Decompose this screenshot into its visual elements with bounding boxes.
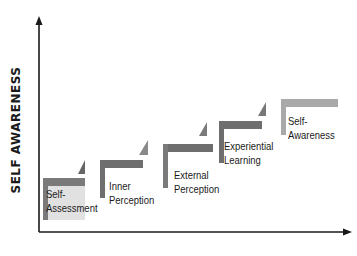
step-2-label: Inner Perception <box>109 179 154 207</box>
y-axis <box>36 16 43 232</box>
step-1-label: Self- Assessment <box>46 187 98 215</box>
step-5-label: Self- Awareness <box>288 114 335 142</box>
step-1-triangle-icon <box>78 160 85 174</box>
x-axis-arrow-icon <box>343 229 352 236</box>
step-3-triangle-icon <box>199 122 207 136</box>
step-4-label: Experiential Learning <box>224 139 273 167</box>
step-4-triangle-icon <box>258 102 266 116</box>
step-2-triangle-icon <box>139 140 148 155</box>
y-axis-arrow-icon <box>36 16 43 25</box>
x-axis <box>39 229 352 236</box>
step-3-label: External Perception <box>174 168 219 196</box>
